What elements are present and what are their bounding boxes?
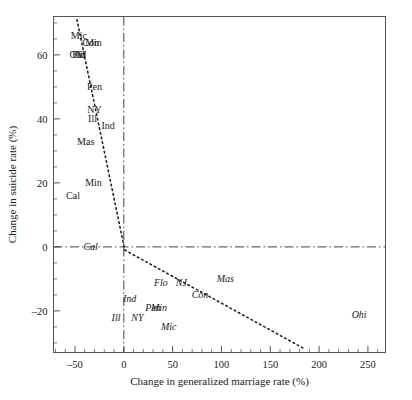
y-tick-label: 20 xyxy=(37,178,48,189)
point-label-min: Min xyxy=(150,302,167,313)
point-label-ill: Ill xyxy=(111,312,121,323)
y-tick-label: 60 xyxy=(37,50,48,61)
y-tick-label: 40 xyxy=(37,114,48,125)
x-tick-label: 100 xyxy=(214,359,230,370)
point-label-cal: Cal xyxy=(83,241,98,252)
y-tick-label: ‒20 xyxy=(31,306,48,317)
x-tick-label: 200 xyxy=(311,359,327,370)
point-label-ohi: Ohi xyxy=(352,309,367,320)
x-axis-title: Change in generalized marriage rate (%) xyxy=(130,375,309,388)
point-label-min: Min xyxy=(85,37,102,48)
point-label-nj: NJ xyxy=(175,277,188,288)
point-label-ny: NY xyxy=(130,312,145,323)
y-axis-title: Change in suicide rate (%) xyxy=(6,126,19,244)
point-label-mic: Mic xyxy=(160,321,177,332)
point-label-cal: Cal xyxy=(66,190,80,201)
lower-fit-line xyxy=(125,250,306,349)
point-label-flo: Flo xyxy=(153,277,168,288)
point-label-pen: Pen xyxy=(87,81,102,92)
x-tick-label: 250 xyxy=(360,359,376,370)
y-tick-label: 0 xyxy=(42,242,47,253)
point-label-nj: NJ xyxy=(75,49,86,60)
x-tick-label: 50 xyxy=(167,359,178,370)
scatter-plot-figure: ‒50050100150200250‒200204060MicConMinOhi… xyxy=(0,0,412,400)
point-label-con: Con xyxy=(192,289,209,300)
point-label-ind: Ind xyxy=(122,293,137,304)
plot-frame xyxy=(54,17,386,353)
point-label-ind: Ind xyxy=(102,120,115,131)
x-tick-label: 0 xyxy=(121,359,126,370)
point-label-ill: Ill xyxy=(88,113,97,124)
plot-canvas: ‒50050100150200250‒200204060MicConMinOhi… xyxy=(0,0,412,400)
point-label-min: Min xyxy=(85,177,102,188)
point-label-mas: Mas xyxy=(216,273,234,284)
point-label-mas: Mas xyxy=(77,136,94,147)
x-tick-label: ‒50 xyxy=(66,359,83,370)
x-tick-label: 150 xyxy=(262,359,278,370)
